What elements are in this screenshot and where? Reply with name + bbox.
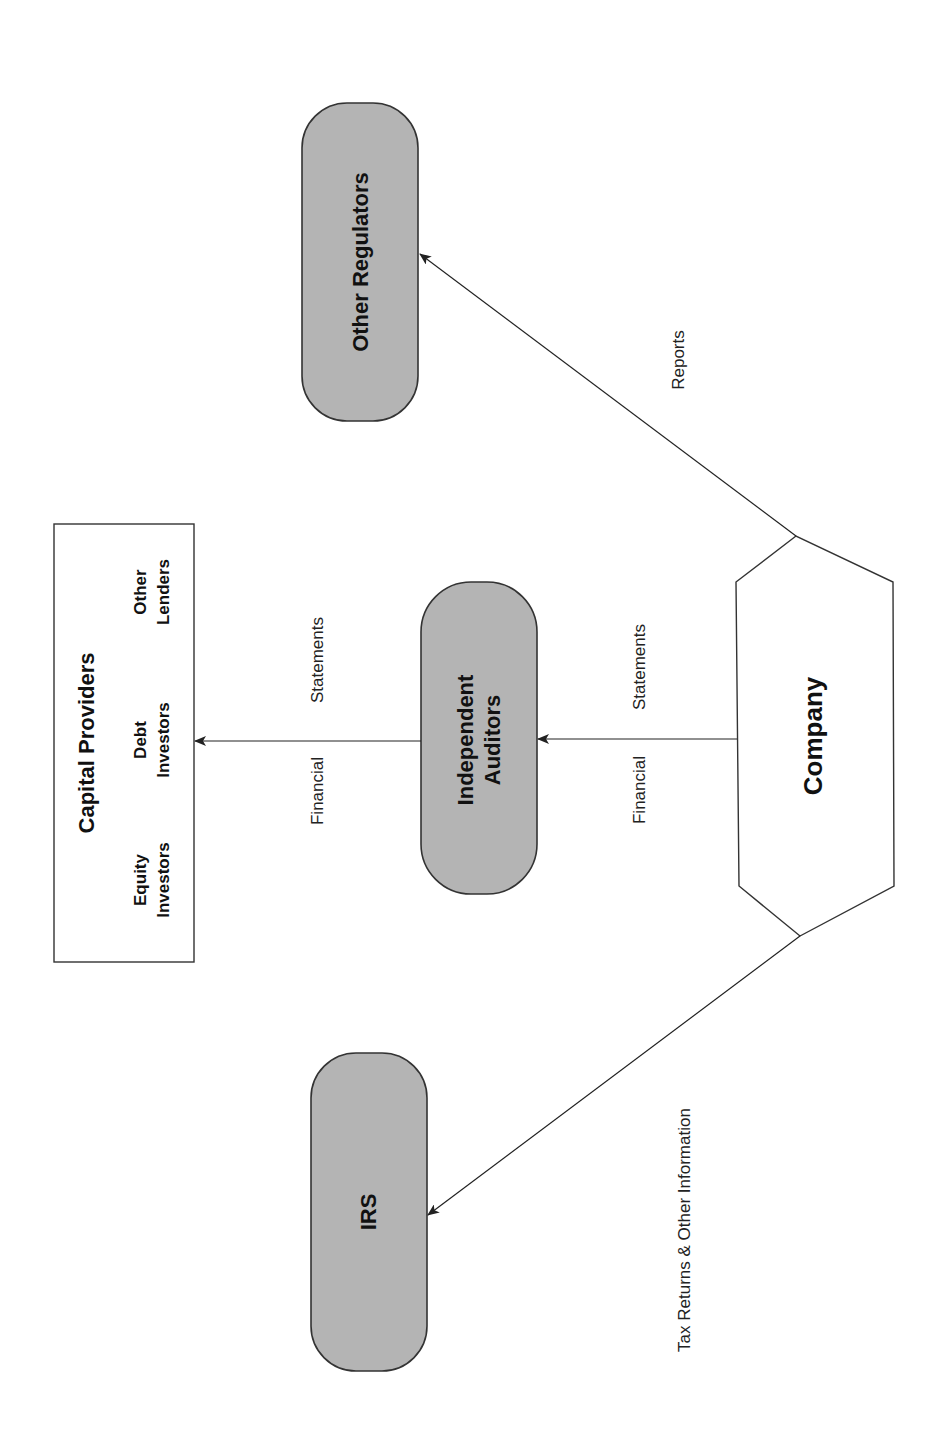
edge-auditors-capital-label-right: Statements [308,617,327,703]
debt-label-line2: Investors [154,702,173,778]
edge-auditors-capital-label-left: Financial [308,757,327,825]
edge-company-auditors-label-right: Statements [630,624,649,710]
independent-auditors-line1: Independent [453,674,478,805]
irs-label: IRS [356,1194,381,1231]
edge-company-to-regulators [420,254,796,536]
diagram-canvas: Capital Providers Equity Investors Debt … [0,0,939,1453]
edge-regulators-label: Reports [669,330,688,390]
lenders-label-line1: Other [131,569,150,615]
independent-auditors-node: Independent Auditors [421,582,537,894]
debt-label-line1: Debt [131,721,150,759]
other-regulators-node: Other Regulators [302,103,418,421]
company-label: Company [798,676,828,795]
irs-node: IRS [311,1053,427,1371]
lenders-label-line2: Lenders [154,559,173,625]
edge-irs-label: Tax Returns & Other Information [675,1108,694,1352]
equity-label-line1: Equity [131,853,150,905]
equity-label-line2: Investors [154,842,173,918]
capital-providers-title: Capital Providers [74,653,99,834]
capital-providers-node: Capital Providers Equity Investors Debt … [54,524,194,962]
edge-company-to-irs [428,936,800,1215]
edge-company-auditors-label-left: Financial [630,756,649,824]
independent-auditors-line2: Auditors [480,695,505,785]
other-regulators-label: Other Regulators [348,172,373,352]
company-node: Company [736,536,894,936]
